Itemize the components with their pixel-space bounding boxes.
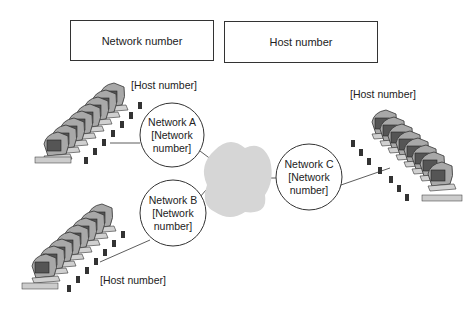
host-number-a-label: [Host number]: [131, 79, 197, 91]
host-number-b-label: [Host number]: [100, 274, 166, 286]
network-a-label: Network A [Network number]: [140, 116, 204, 155]
network-c-label: Network C [Network number]: [277, 158, 341, 197]
internet-cloud-icon: [204, 142, 272, 217]
network-b-label: Network B [Network number]: [141, 194, 205, 233]
computer-row-c-icon: [351, 110, 462, 201]
host-number-c-label: [Host number]: [350, 88, 416, 100]
computer-row-a-icon: [35, 83, 142, 164]
network-diagram: [0, 0, 475, 309]
